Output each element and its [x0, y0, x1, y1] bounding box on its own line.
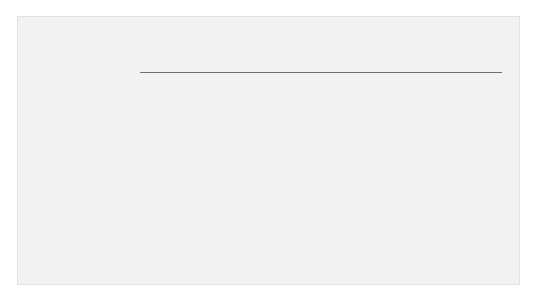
plot-area	[140, 73, 502, 273]
chart-screenshot	[0, 0, 538, 308]
